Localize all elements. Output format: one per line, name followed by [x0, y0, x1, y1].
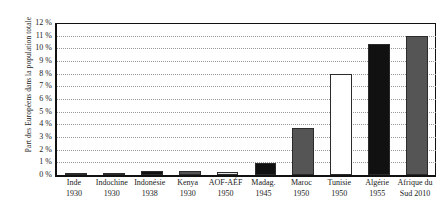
bar-slot	[255, 23, 277, 175]
bar-slot	[368, 23, 390, 175]
x-tick-category-name: Afrique du	[392, 178, 438, 189]
y-tick-label: 7 %	[22, 82, 52, 90]
y-tick-label: 0 %	[22, 171, 52, 179]
y-tick-label: 4 %	[22, 120, 52, 128]
bar-slot	[217, 23, 239, 175]
bar-slot	[65, 23, 87, 175]
y-tick-label: 3 %	[22, 133, 52, 141]
y-tick-label: 10 %	[22, 44, 52, 52]
bar[interactable]	[292, 128, 314, 175]
y-tick-label: 2 %	[22, 146, 52, 154]
y-tick-label: 9 %	[22, 57, 52, 65]
bars-layer	[57, 23, 436, 175]
bar[interactable]	[179, 171, 201, 175]
bar-slot	[292, 23, 314, 175]
bar[interactable]	[406, 36, 428, 175]
x-tick-label: Afrique duSud 2010	[392, 178, 438, 199]
y-tick-label: 11 %	[22, 32, 52, 40]
bar[interactable]	[217, 172, 239, 175]
bar-slot	[103, 23, 125, 175]
bar-slot	[141, 23, 163, 175]
bar-slot	[406, 23, 428, 175]
y-axis-tick-labels: 0 %1 %2 %3 %4 %5 %6 %7 %8 %9 %10 %11 %12…	[22, 23, 52, 175]
y-tick-label: 6 %	[22, 95, 52, 103]
bar-slot	[179, 23, 201, 175]
bar-chart: Part des Européens dans la population to…	[0, 0, 442, 209]
y-tick-label: 8 %	[22, 70, 52, 78]
y-tick-label: 12 %	[22, 19, 52, 27]
x-axis-tick-labels: Inde1930Indochine1930Indonésie1938Kenya1…	[55, 178, 434, 208]
plot-area	[55, 23, 436, 177]
bar[interactable]	[65, 173, 87, 175]
bar[interactable]	[103, 173, 125, 175]
bar[interactable]	[255, 163, 277, 175]
y-tick-label: 5 %	[22, 108, 52, 116]
bar[interactable]	[330, 74, 352, 175]
y-tick-label: 1 %	[22, 158, 52, 166]
bar-slot	[330, 23, 352, 175]
bar[interactable]	[141, 171, 163, 175]
x-tick-category-year: Sud 2010	[392, 189, 438, 200]
bar[interactable]	[368, 44, 390, 175]
